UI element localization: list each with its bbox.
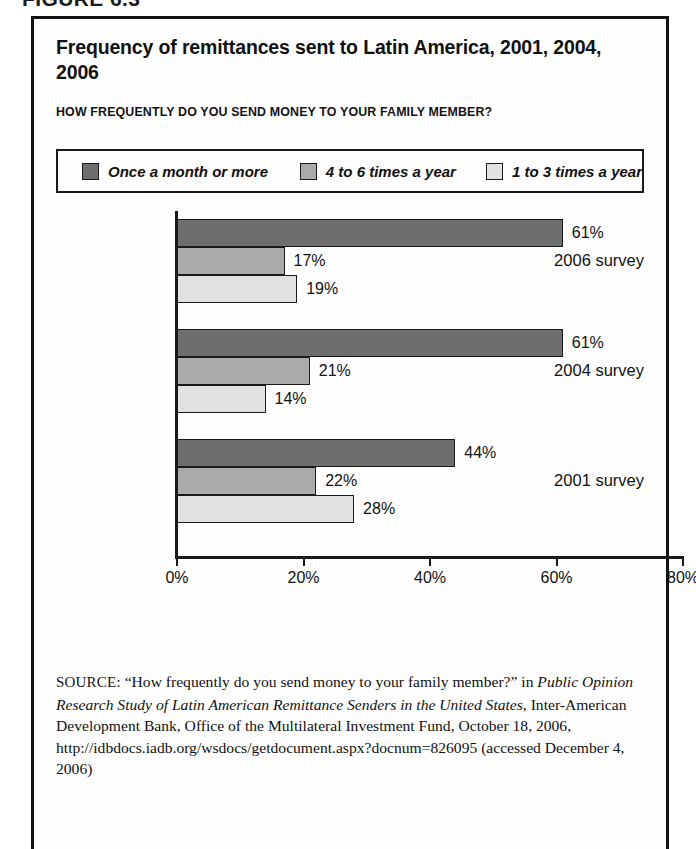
legend-swatch-icon-0 (82, 163, 99, 180)
plot-area: 0%20%40%60%80% 2006 survey61%17%19%2004 … (56, 211, 644, 566)
bar (177, 439, 455, 467)
axis-tick-label-4: 80% (667, 569, 696, 587)
bar-row: 22% (177, 467, 687, 495)
source-quote: “How frequently do you send money to you… (121, 673, 518, 690)
bar-row: 61% (177, 329, 687, 357)
bar-row: 28% (177, 495, 687, 523)
figure-number: FIGURE 6.3 (22, 0, 140, 11)
bar (177, 385, 266, 413)
bar (177, 357, 310, 385)
axis-tick-1 (303, 556, 305, 566)
bar-group: 2004 survey61%21%14% (56, 329, 644, 413)
legend-swatch-icon-2 (486, 163, 503, 180)
bar-group: 2001 survey44%22%28% (56, 439, 644, 523)
bar (177, 495, 354, 523)
bar (177, 467, 316, 495)
bar-row: 61% (177, 219, 687, 247)
axis-tick-label-0: 0% (165, 569, 188, 587)
axis-tick-4 (682, 556, 684, 566)
legend-item-once-a-month-or-more: Once a month or more (82, 163, 268, 180)
axis-tick-label-2: 40% (414, 569, 446, 587)
legend-label-2: 1 to 3 times a year (512, 163, 642, 180)
bar-value-label: 61% (572, 334, 604, 352)
bar-group: 2006 survey61%17%19% (56, 219, 644, 303)
axis-tick-3 (556, 556, 558, 566)
bar-value-label: 22% (325, 472, 357, 490)
bar-row: 14% (177, 385, 687, 413)
source-label: SOURCE: (56, 674, 121, 690)
bar-value-label: 14% (275, 390, 307, 408)
axis-tick-0 (176, 556, 178, 566)
figure-frame: Frequency of remittances sent to Latin A… (31, 16, 669, 849)
bar (177, 329, 563, 357)
bar (177, 219, 563, 247)
legend-label-1: 4 to 6 times a year (326, 163, 456, 180)
bar-value-label: 21% (319, 362, 351, 380)
axis-tick-2 (429, 556, 431, 566)
bar-row: 19% (177, 275, 687, 303)
bar-value-label: 28% (363, 500, 395, 518)
axis-tick-label-1: 20% (287, 569, 319, 587)
chart-legend: Once a month or more 4 to 6 times a year… (56, 149, 644, 193)
legend-item-4-to-6-times-a-year: 4 to 6 times a year (300, 163, 456, 180)
bar-value-label: 17% (294, 252, 326, 270)
bar-row: 44% (177, 439, 687, 467)
bar-value-label: 61% (572, 224, 604, 242)
axis-tick-label-3: 60% (540, 569, 572, 587)
legend-label-0: Once a month or more (108, 163, 268, 180)
bar-value-label: 44% (464, 444, 496, 462)
bar (177, 247, 285, 275)
bar-row: 17% (177, 247, 687, 275)
chart-title: Frequency of remittances sent to Latin A… (56, 35, 616, 85)
legend-item-1-to-3-times-a-year: 1 to 3 times a year (486, 163, 642, 180)
chart-subtitle: HOW FREQUENTLY DO YOU SEND MONEY TO YOUR… (56, 105, 644, 119)
source-prefix: in (521, 673, 537, 690)
bar (177, 275, 297, 303)
bar-row: 21% (177, 357, 687, 385)
bar-value-label: 19% (306, 280, 338, 298)
source-note: SOURCE: “How frequently do you send mone… (56, 671, 646, 780)
legend-swatch-icon-1 (300, 163, 317, 180)
